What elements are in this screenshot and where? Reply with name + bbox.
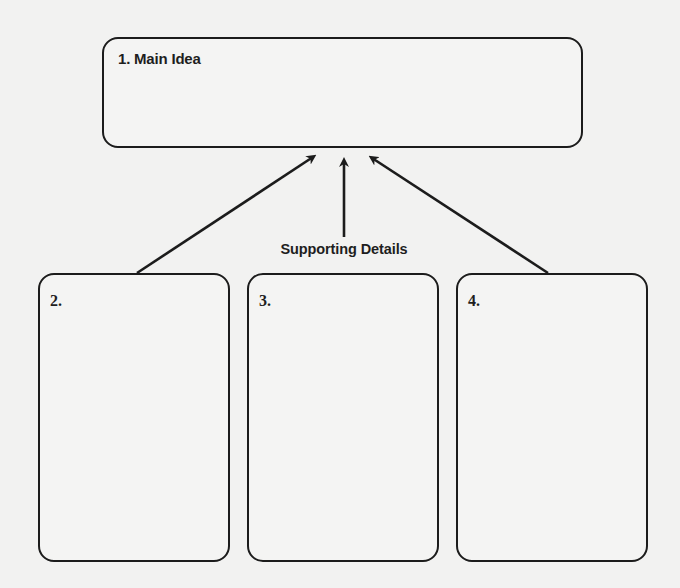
detail-box-4: 4. (456, 273, 648, 562)
detail-box-2: 2. (38, 273, 230, 562)
main-idea-box: 1. Main Idea (102, 37, 583, 148)
supporting-details-caption: Supporting Details (244, 241, 444, 257)
detail-box-3: 3. (247, 273, 439, 562)
detail-label-4: 4. (468, 292, 480, 310)
detail-label-2: 2. (50, 292, 62, 310)
detail-label-3: 3. (259, 292, 271, 310)
main-idea-label: 1. Main Idea (118, 50, 201, 67)
